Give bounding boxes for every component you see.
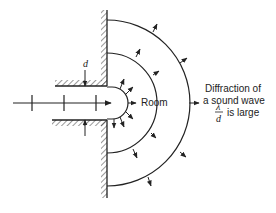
caption-line-2: a sound wave xyxy=(203,95,265,106)
condition-label: is large xyxy=(227,107,259,118)
lambda-symbol: λ xyxy=(216,101,220,112)
wall xyxy=(52,10,107,198)
caption-line-1: Diffraction of xyxy=(205,83,261,94)
d-denominator: d xyxy=(216,113,221,124)
opening-width-label: d xyxy=(83,58,88,69)
room-label: Room xyxy=(141,97,168,108)
incident-wave-arrow xyxy=(13,95,111,111)
